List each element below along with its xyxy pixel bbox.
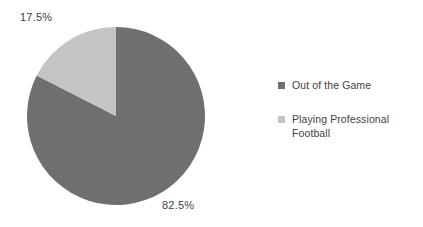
legend-item-playing-professional-football[interactable]: Playing Professional Football (278, 112, 418, 140)
pie-chart-figure: 17.5% 82.5% Out of the Game Playing Prof… (0, 0, 423, 227)
legend-item-out-of-the-game[interactable]: Out of the Game (278, 78, 418, 92)
square-marker-icon (278, 82, 285, 89)
data-label-small-slice: 17.5% (20, 11, 52, 23)
pie-svg (27, 27, 205, 205)
chart-legend: Out of the Game Playing Professional Foo… (278, 78, 418, 160)
pie-plot-area: 17.5% 82.5% (0, 0, 232, 227)
square-marker-icon (278, 116, 285, 123)
legend-item-label: Out of the Game (292, 78, 371, 92)
data-label-large-slice: 82.5% (162, 199, 194, 211)
legend-item-label: Playing Professional Football (292, 112, 404, 140)
